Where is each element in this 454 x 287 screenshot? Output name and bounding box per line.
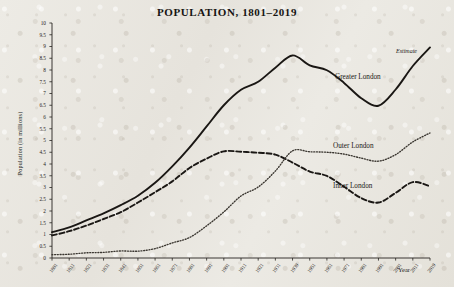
y-tick-7_5: 7.5 [24, 79, 46, 85]
y-tick-7: 7 [24, 90, 46, 96]
series-label-inner-london: Inner London [333, 182, 372, 190]
y-tick-9: 9 [24, 43, 46, 49]
y-tick-1: 1 [24, 231, 46, 237]
series-label-greater-london: Greater London [335, 73, 381, 81]
y-tick-8_5: 8.5 [24, 55, 46, 61]
y-tick-3_5: 3.5 [24, 173, 46, 179]
series-line-inner-london [52, 151, 430, 236]
y-tick-3: 3 [24, 184, 46, 190]
y-tick-0_5: 0.5 [24, 243, 46, 249]
series-label-outer-london: Outer London [333, 142, 374, 150]
y-tick-6: 6 [24, 114, 46, 120]
y-tick-4: 4 [24, 161, 46, 167]
y-tick-10: 10 [24, 20, 46, 26]
y-tick-2_5: 2.5 [24, 196, 46, 202]
y-tick-1_5: 1.5 [24, 220, 46, 226]
y-tick-0: 0 [24, 255, 46, 261]
y-tick-6_5: 6.5 [24, 102, 46, 108]
y-tick-8: 8 [24, 67, 46, 73]
annotation-estimate: Estimate [396, 48, 417, 54]
y-tick-9_5: 9.5 [24, 32, 46, 38]
y-tick-5: 5 [24, 137, 46, 143]
plot-area [0, 0, 454, 287]
y-tick-2: 2 [24, 208, 46, 214]
y-tick-5_5: 5.5 [24, 126, 46, 132]
population-line-chart: POPULATION, 1801–2019 Population (in mil… [0, 0, 454, 287]
y-tick-4_5: 4.5 [24, 149, 46, 155]
